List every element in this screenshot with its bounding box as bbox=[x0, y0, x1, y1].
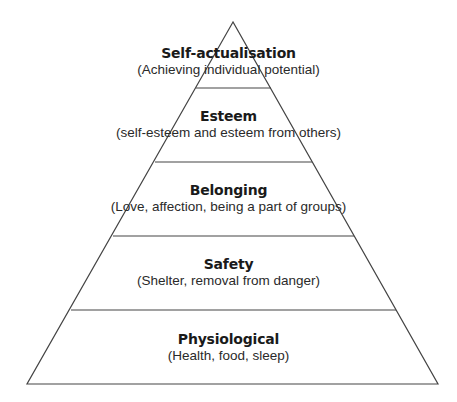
level-description: (Health, food, sleep) bbox=[0, 348, 457, 364]
level-description: (Love, affection, being a part of groups… bbox=[0, 199, 457, 215]
level-belonging: Belonging (Love, affection, being a part… bbox=[0, 182, 457, 215]
level-description: (Shelter, removal from danger) bbox=[0, 273, 457, 289]
level-title: Safety bbox=[0, 256, 457, 273]
level-title: Belonging bbox=[0, 182, 457, 199]
level-safety: Safety (Shelter, removal from danger) bbox=[0, 256, 457, 289]
level-self-actualisation: Self-actualisation (Achieving individual… bbox=[0, 45, 457, 78]
level-esteem: Esteem (self-esteem and esteem from othe… bbox=[0, 108, 457, 141]
level-description: (self-esteem and esteem from others) bbox=[0, 125, 457, 141]
level-title: Esteem bbox=[0, 108, 457, 125]
level-title: Physiological bbox=[0, 331, 457, 348]
pyramid-diagram: Self-actualisation (Achieving individual… bbox=[0, 0, 457, 402]
level-title: Self-actualisation bbox=[0, 45, 457, 62]
level-physiological: Physiological (Health, food, sleep) bbox=[0, 331, 457, 364]
level-description: (Achieving individual potential) bbox=[0, 62, 457, 78]
